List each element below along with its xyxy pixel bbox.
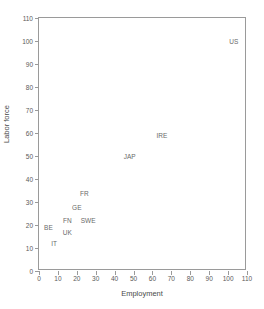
y-tick-label: 80 bbox=[26, 84, 33, 91]
x-tick-label: 100 bbox=[223, 275, 234, 282]
x-tick-label: 0 bbox=[37, 275, 41, 282]
x-tick-label: 10 bbox=[54, 275, 61, 282]
y-tick-label: 10 bbox=[26, 245, 33, 252]
data-point-label: IT bbox=[51, 240, 57, 247]
data-point-label: GE bbox=[72, 203, 81, 210]
x-tick-label: 40 bbox=[111, 275, 118, 282]
scatter-chart: 0102030405060708090100110 01020304050607… bbox=[0, 0, 264, 309]
x-tick-label: 20 bbox=[73, 275, 80, 282]
y-tick-label: 110 bbox=[23, 15, 33, 22]
data-point-label: UK bbox=[63, 228, 72, 235]
data-point-label: JAP bbox=[124, 153, 136, 160]
data-point-label: BE bbox=[44, 224, 53, 231]
y-tick-label: 20 bbox=[26, 222, 33, 229]
y-tick-mark bbox=[35, 110, 39, 111]
y-tick-mark bbox=[35, 87, 39, 88]
y-tick-label: 90 bbox=[26, 61, 33, 68]
x-tick-label: 30 bbox=[92, 275, 99, 282]
data-point-label: FN bbox=[63, 217, 72, 224]
data-point-label: FR bbox=[80, 189, 89, 196]
x-tick-label: 60 bbox=[149, 275, 156, 282]
x-tick-label: 90 bbox=[206, 275, 213, 282]
x-tick-label: 50 bbox=[130, 275, 137, 282]
y-tick-label: 100 bbox=[22, 38, 33, 45]
y-tick-mark bbox=[35, 156, 39, 157]
plot-area: 0102030405060708090100110 01020304050607… bbox=[38, 17, 246, 270]
data-point-label: SWE bbox=[81, 217, 96, 224]
y-tick-mark bbox=[35, 202, 39, 203]
y-tick-mark bbox=[35, 133, 39, 134]
x-tick-label: 70 bbox=[168, 275, 175, 282]
y-tick-label: 60 bbox=[26, 130, 33, 137]
data-point-label: IRE bbox=[156, 132, 167, 139]
y-tick-label: 0 bbox=[29, 268, 33, 275]
y-tick-mark bbox=[35, 179, 39, 180]
x-tick-label: 110 bbox=[242, 275, 252, 282]
y-tick-label: 50 bbox=[26, 153, 33, 160]
y-tick-mark bbox=[35, 18, 39, 19]
y-tick-label: 40 bbox=[26, 176, 33, 183]
y-tick-mark bbox=[35, 64, 39, 65]
y-axis-title: Labor force bbox=[2, 105, 11, 143]
y-tick-mark bbox=[35, 248, 39, 249]
y-tick-label: 30 bbox=[26, 199, 33, 206]
x-tick-label: 80 bbox=[187, 275, 194, 282]
y-tick-mark bbox=[35, 225, 39, 226]
x-axis-title: Employment bbox=[38, 289, 246, 298]
y-tick-mark bbox=[35, 41, 39, 42]
data-point-label: US bbox=[229, 38, 238, 45]
y-tick-label: 70 bbox=[26, 107, 33, 114]
